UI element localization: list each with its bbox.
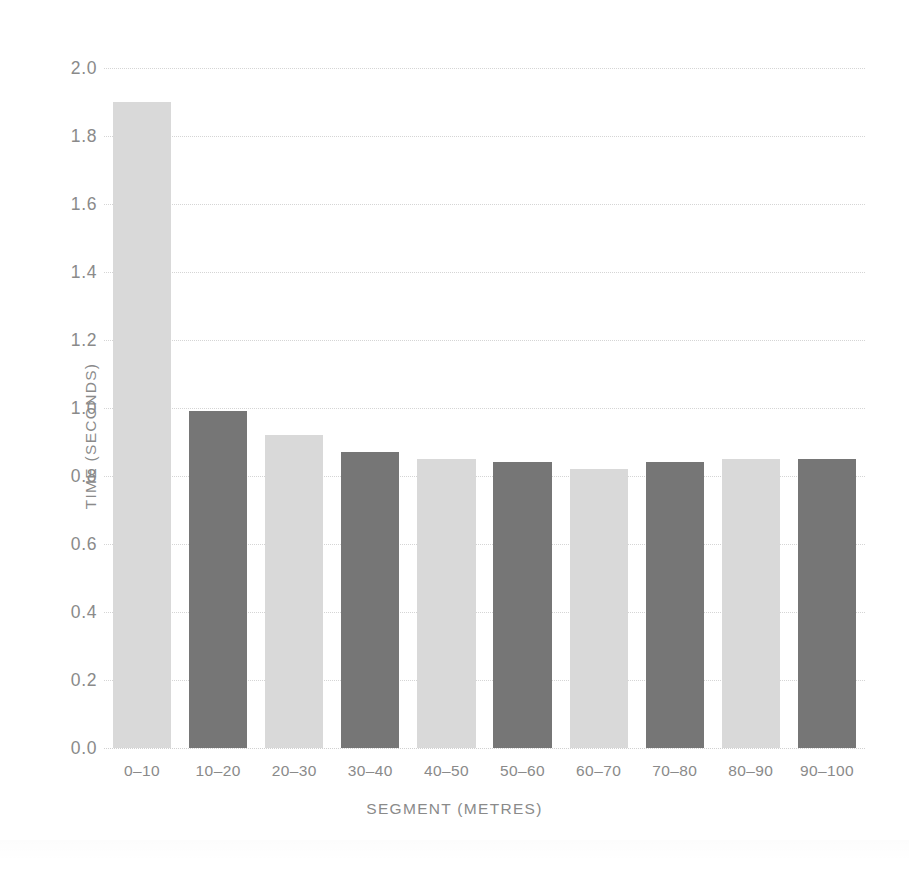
gridline (104, 748, 865, 749)
x-axis-tick-label: 30–40 (348, 762, 393, 780)
x-axis-tick-label: 80–90 (728, 762, 773, 780)
x-axis-tick-label: 90–100 (800, 762, 854, 780)
plot-area (104, 68, 865, 748)
x-axis-tick-label: 70–80 (652, 762, 697, 780)
y-axis-tick-label: 1.2 (71, 330, 97, 351)
bar-series (104, 68, 865, 748)
x-axis-tick-label: 0–10 (124, 762, 160, 780)
bar (189, 411, 247, 748)
bar-chart-figure: 0.00.20.40.60.81.01.21.41.61.82.0 TIME (… (0, 0, 909, 871)
x-axis-tick-label: 50–60 (500, 762, 545, 780)
y-axis-tick-label: 1.4 (71, 262, 97, 283)
bar (570, 469, 628, 748)
y-axis-tick-label: 1.6 (71, 194, 97, 215)
y-axis-tick-label: 0.0 (71, 738, 97, 759)
bar (646, 462, 704, 748)
y-axis-tick-label: 0.2 (71, 670, 97, 691)
bar (113, 102, 171, 748)
x-axis-tick-label: 40–50 (424, 762, 469, 780)
y-axis-tick-label: 2.0 (71, 58, 97, 79)
y-axis-tick-label: 1.8 (71, 126, 97, 147)
bar (341, 452, 399, 748)
y-axis-tick-label: 0.4 (71, 602, 97, 623)
x-axis-title: SEGMENT (METRES) (0, 800, 909, 818)
scan-artifact (0, 840, 909, 862)
x-axis-tick-labels: 0–1010–2020–3030–4040–5050–6060–7070–808… (104, 762, 865, 788)
bar (493, 462, 551, 748)
x-axis-tick-label: 60–70 (576, 762, 621, 780)
bar (722, 459, 780, 748)
bar (798, 459, 856, 748)
x-axis-tick-label: 10–20 (196, 762, 241, 780)
bar (265, 435, 323, 748)
bar (417, 459, 475, 748)
y-axis-tick-label: 0.6 (71, 534, 97, 555)
x-axis-tick-label: 20–30 (272, 762, 317, 780)
y-axis-title: TIME (SECONDS) (82, 362, 100, 509)
